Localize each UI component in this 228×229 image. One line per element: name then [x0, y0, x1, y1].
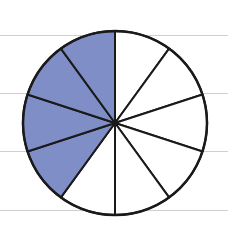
fraction-circle [0, 0, 228, 229]
center-point [113, 121, 118, 126]
